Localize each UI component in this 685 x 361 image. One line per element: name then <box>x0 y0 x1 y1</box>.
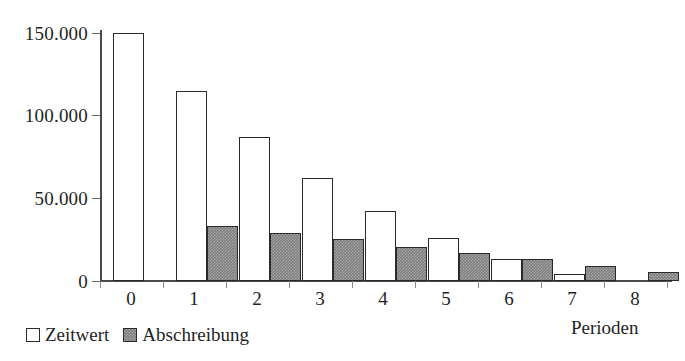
x-tick-label-3: 3 <box>300 288 340 310</box>
y-tick-label-100000: 100.000 <box>2 106 88 125</box>
x-tick-label-8: 8 <box>615 288 655 310</box>
legend-swatch-abschreibung-icon <box>123 328 137 342</box>
bar-abschreibung-p4 <box>396 247 427 281</box>
x-tick-mark-3 <box>289 281 290 288</box>
legend-entry-zeitwert: Zeitwert <box>26 325 109 345</box>
legend-entry-abschreibung: Abschreibung <box>123 325 249 345</box>
y-tick-label-0: 0 <box>2 272 88 291</box>
bar-abschreibung-p3 <box>333 239 364 281</box>
x-tick-label-6: 6 <box>489 288 529 310</box>
bar-zeitwert-p6 <box>491 259 522 281</box>
x-tick-mark-7 <box>541 281 542 288</box>
y-tick-label-50000: 50.000 <box>2 189 88 208</box>
bar-zeitwert-p5 <box>428 238 459 281</box>
x-tick-mark-8 <box>604 281 605 288</box>
bar-zeitwert-p0 <box>113 33 144 281</box>
x-tick-mark-1 <box>163 281 164 288</box>
x-tick-label-2: 2 <box>237 288 277 310</box>
legend-swatch-zeitwert-icon <box>26 328 40 342</box>
bar-abschreibung-p7 <box>585 266 616 281</box>
x-tick-label-4: 4 <box>363 288 403 310</box>
y-tick-label-150000: 150.000 <box>2 24 88 43</box>
x-tick-label-5: 5 <box>426 288 466 310</box>
bar-abschreibung-p2 <box>270 233 301 281</box>
bar-zeitwert-p4 <box>365 211 396 281</box>
x-tick-mark-0 <box>100 281 101 288</box>
x-tick-label-1: 1 <box>174 288 214 310</box>
x-tick-label-7: 7 <box>552 288 592 310</box>
bars-layer <box>100 25 672 281</box>
depreciation-bar-chart: 150.000 100.000 50.000 0 <box>0 0 685 361</box>
chart-legend: Zeitwert Abschreibung <box>26 325 249 345</box>
x-tick-mark-6 <box>478 281 479 288</box>
bar-zeitwert-p2 <box>239 137 270 281</box>
bar-abschreibung-p5 <box>459 253 490 281</box>
x-tick-mark-2 <box>226 281 227 288</box>
x-axis-title: Perioden <box>571 318 639 338</box>
x-tick-mark-5 <box>415 281 416 288</box>
legend-label-abschreibung: Abschreibung <box>142 325 249 345</box>
x-tick-mark-end <box>667 281 668 288</box>
bar-zeitwert-p3 <box>302 178 333 281</box>
legend-label-zeitwert: Zeitwert <box>45 325 109 345</box>
bar-zeitwert-p7 <box>554 274 585 281</box>
bar-abschreibung-p6 <box>522 259 553 281</box>
bar-abschreibung-p8 <box>648 272 679 281</box>
bar-zeitwert-p1 <box>176 91 207 281</box>
x-tick-mark-4 <box>352 281 353 288</box>
bar-abschreibung-p1 <box>207 226 238 281</box>
x-tick-label-0: 0 <box>111 288 151 310</box>
